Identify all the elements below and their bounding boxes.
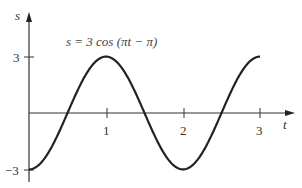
x-tick-label-2: 2 bbox=[180, 123, 187, 138]
x-tick-label-3: 3 bbox=[256, 123, 263, 138]
equation-label: s = 3 cos (πt − π) bbox=[66, 34, 157, 49]
chart-canvas: s t 1 2 3 3 −3 s = 3 cos (πt − π) bbox=[0, 0, 302, 188]
y-axis-label: s bbox=[15, 8, 20, 23]
x-axis-label: t bbox=[283, 117, 287, 132]
x-axis-arrow-icon bbox=[285, 110, 295, 116]
y-tick-label-neg3: −3 bbox=[5, 163, 19, 178]
x-tick-label-1: 1 bbox=[103, 123, 110, 138]
y-axis-arrow-icon bbox=[26, 12, 32, 22]
y-tick-label-3: 3 bbox=[13, 50, 20, 65]
